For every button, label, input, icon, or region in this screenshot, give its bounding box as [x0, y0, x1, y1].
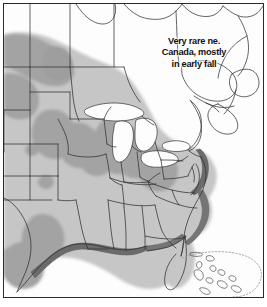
lake-ontario	[162, 141, 190, 152]
map-canvas	[4, 4, 263, 297]
map-frame: Very rare ne. Canada, mostly in early fa…	[3, 3, 264, 298]
range-map-figure: Very rare ne. Canada, mostly in early fa…	[0, 0, 267, 307]
lake-erie	[141, 151, 178, 168]
map-vector	[4, 4, 263, 297]
